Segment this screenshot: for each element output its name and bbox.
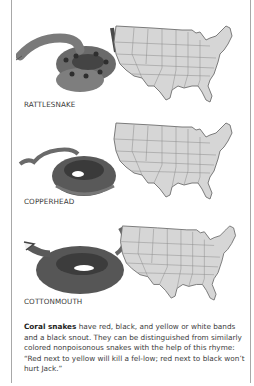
caption-bold-term: Coral snakes (24, 322, 76, 331)
cottonmouth-illustration (20, 224, 128, 296)
coral-snakes-caption: Coral snakes have red, black, and yellow… (24, 322, 248, 375)
frame-left-border (11, 0, 12, 383)
us-map-cottonmouth-range (118, 224, 240, 302)
us-map-copperhead-range (112, 121, 236, 201)
rattlesnake-label: RATTLESNAKE (24, 100, 75, 109)
rattlesnake-illustration (16, 24, 118, 96)
copperhead-label: COPPERHEAD (24, 197, 74, 206)
cottonmouth-label: COTTONMOUTH (24, 297, 82, 306)
frame-right-border (250, 0, 251, 383)
copperhead-illustration (18, 142, 120, 204)
us-map-rattlesnake-range (112, 24, 236, 104)
